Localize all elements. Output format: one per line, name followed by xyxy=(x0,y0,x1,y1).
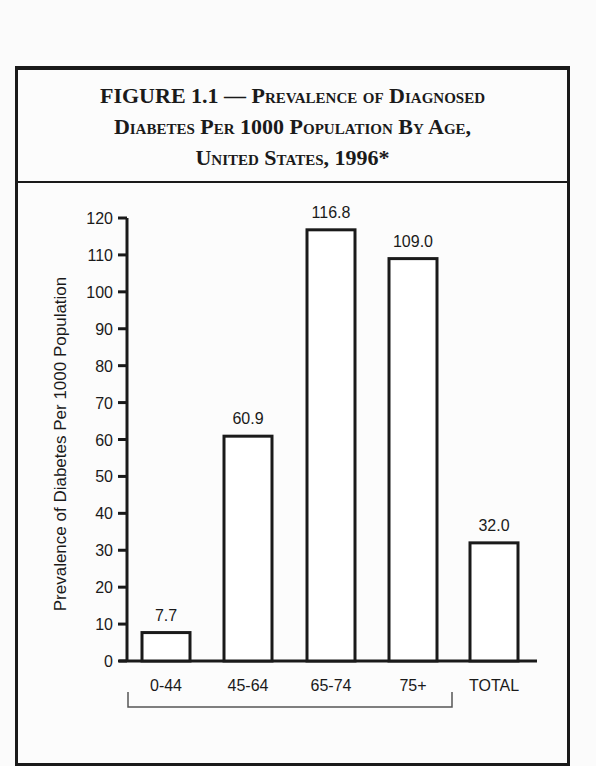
bar-value-label: 109.0 xyxy=(393,233,433,250)
y-tick-label: 100 xyxy=(86,284,113,301)
x-category-label: 65-74 xyxy=(311,677,352,694)
age-group-bracket xyxy=(128,692,452,707)
y-tick-label: 50 xyxy=(95,468,113,485)
x-category-label: 75+ xyxy=(399,677,426,694)
y-tick-label: 20 xyxy=(95,579,113,596)
x-category-label: 45-64 xyxy=(228,677,269,694)
y-tick-label: 80 xyxy=(95,358,113,375)
y-tick-label: 120 xyxy=(86,210,113,227)
y-tick-label: 60 xyxy=(95,432,113,449)
bar-value-label: 7.7 xyxy=(155,607,177,624)
bar-value-label: 32.0 xyxy=(478,517,509,534)
bar-45-64 xyxy=(224,436,272,661)
bar-65-74 xyxy=(307,230,355,661)
bar-75- xyxy=(389,259,437,661)
bar-0-44 xyxy=(142,633,190,661)
y-tick-label: 90 xyxy=(95,321,113,338)
y-tick-label: 0 xyxy=(104,653,113,670)
x-category-label: TOTAL xyxy=(469,677,519,694)
y-tick-label: 30 xyxy=(95,542,113,559)
bar-value-label: 60.9 xyxy=(232,410,263,427)
x-category-label: 0-44 xyxy=(150,677,182,694)
y-tick-label: 10 xyxy=(95,616,113,633)
y-tick-label: 70 xyxy=(95,395,113,412)
y-tick-label: 110 xyxy=(87,247,113,264)
bar-total xyxy=(470,543,518,661)
y-tick-label: 40 xyxy=(95,505,113,522)
bar-value-label: 116.8 xyxy=(312,204,351,221)
